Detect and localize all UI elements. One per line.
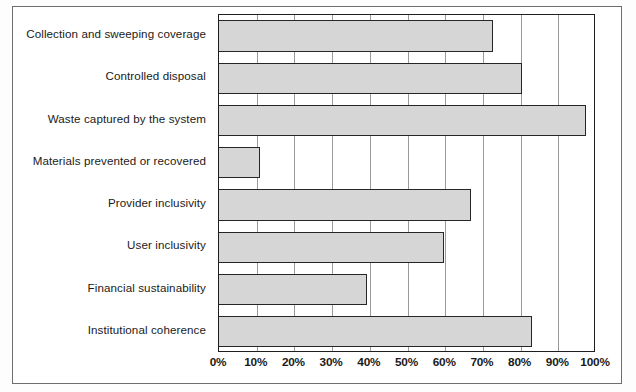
category-label: Financial sustainability [88,281,206,294]
figure-root: Collection and sweeping coverageControll… [0,0,636,392]
bars-layer [219,15,594,351]
bar-row [219,147,594,178]
bar-row [219,189,594,220]
category-label: Collection and sweeping coverage [26,27,206,40]
bar-row [219,274,594,305]
bar [218,232,444,263]
category-axis-labels: Collection and sweeping coverageControll… [0,14,212,352]
x-tick-label: 90% [546,355,569,369]
x-tick-label: 60% [433,355,456,369]
bar-row [219,316,594,347]
category-label: Materials prevented or recovered [33,154,206,167]
bar [218,189,471,220]
x-tick-label: 20% [282,355,305,369]
x-tick-label: 30% [320,355,343,369]
horizontal-bar-chart: Collection and sweeping coverageControll… [0,0,636,392]
plot-area [218,14,595,352]
bar [218,274,367,305]
value-axis-labels: 0%10%20%30%40%50%60%70%80%90%100% [218,355,595,377]
x-tick-label: 0% [210,355,227,369]
x-tick-label: 80% [508,355,531,369]
category-label: Institutional coherence [88,323,206,336]
bar-row [219,20,594,51]
x-tick-label: 50% [395,355,418,369]
x-tick-label: 40% [357,355,380,369]
bar [218,105,586,136]
bar [218,20,493,51]
x-tick-label: 70% [470,355,493,369]
bar-row [219,232,594,263]
category-label: Waste captured by the system [48,112,206,125]
bar-row [219,105,594,136]
category-label: Provider inclusivity [108,196,206,209]
bar [218,63,522,94]
category-label: Controlled disposal [105,69,206,82]
category-label: User inclusivity [127,238,206,251]
x-tick-label: 10% [244,355,267,369]
bar [218,147,260,178]
bar-row [219,63,594,94]
x-tick-label: 100% [580,355,609,369]
bar [218,316,532,347]
